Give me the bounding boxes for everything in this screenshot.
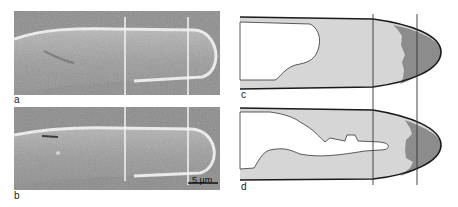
schematic-drawing bbox=[0, 0, 458, 207]
panel-label-c: c bbox=[241, 90, 246, 100]
schematic-panels-cd bbox=[0, 0, 458, 207]
schematic-panel-d bbox=[240, 108, 441, 180]
schematic-panel-c bbox=[240, 17, 441, 89]
panel-label-d: d bbox=[241, 182, 247, 192]
